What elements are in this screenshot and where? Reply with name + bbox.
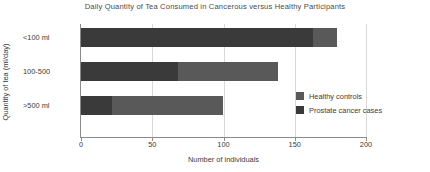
bar-segment: [313, 28, 337, 47]
legend-label: Prostate cancer cases: [309, 106, 382, 115]
bar-segment: [81, 62, 178, 81]
x-tick-label: 200: [360, 140, 372, 149]
x-axis-title: Number of individuals: [81, 155, 366, 164]
bar-segment: [112, 96, 223, 115]
bar-row: [0, 62, 430, 81]
x-tick-label: 150: [289, 140, 301, 149]
legend-swatch: [296, 106, 304, 114]
legend-item: Healthy controls: [296, 90, 382, 102]
bar-segment: [81, 28, 313, 47]
legend-item: Prostate cancer cases: [296, 104, 382, 116]
bar-segment: [178, 62, 278, 81]
x-tick-label: 0: [79, 140, 83, 149]
legend-swatch: [296, 92, 304, 100]
bar-chart: Daily Quantity of Tea Consumed in Cancer…: [0, 0, 430, 172]
bar-row: [0, 28, 430, 47]
legend-label: Healthy controls: [309, 92, 362, 101]
bar-segment: [81, 96, 112, 115]
x-tick-label: 100: [217, 140, 229, 149]
chart-legend: Healthy controlsProstate cancer cases: [296, 90, 382, 118]
chart-title: Daily Quantity of Tea Consumed in Cancer…: [0, 2, 430, 11]
x-tick-label: 50: [148, 140, 156, 149]
